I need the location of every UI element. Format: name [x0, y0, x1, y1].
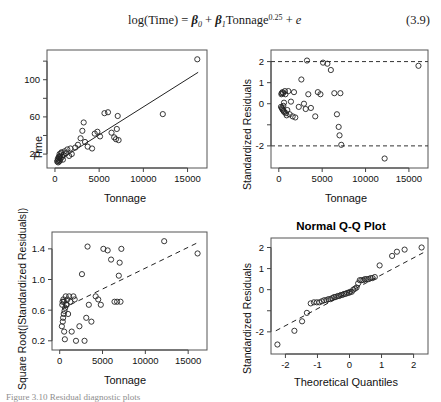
svg-text:2: 2: [259, 242, 264, 253]
equation-body: log(Time) = β0 + β1Tonnage0.25 + e: [128, 13, 301, 29]
equation-error-term: e: [296, 13, 302, 27]
svg-text:1: 1: [259, 77, 264, 88]
svg-text:-2: -2: [256, 140, 264, 151]
svg-text:5000: 5000: [312, 173, 333, 184]
svg-text:15000: 15000: [174, 173, 200, 184]
plot-canvas-normal-qq: -2-1012210-2: [221, 218, 441, 398]
svg-text:0: 0: [276, 173, 281, 184]
svg-text:0: 0: [347, 359, 352, 370]
svg-text:1.0: 1.0: [32, 274, 45, 285]
plot-canvas-std-residuals: 050001000015000210-2: [221, 40, 441, 215]
equation-line: log(Time) = β0 + β1Tonnage0.25 + e (3.9): [0, 6, 441, 36]
svg-text:-1: -1: [313, 359, 321, 370]
svg-text:0: 0: [259, 284, 264, 295]
svg-text:5000: 5000: [92, 355, 113, 366]
equation-tonnage-term: Tonnage: [226, 13, 269, 27]
equation-plus-two: +: [283, 13, 296, 27]
plot-canvas-time-vs-tonnage: 0500010000150002060100: [0, 40, 220, 215]
svg-text:1: 1: [379, 359, 384, 370]
equation-exponent: 0.25: [269, 13, 283, 22]
svg-text:0: 0: [259, 98, 264, 109]
plot-canvas-sqrt-std-residuals: 0500010000150000.20.61.01.4: [0, 218, 220, 398]
equation-number: (3.9): [406, 13, 430, 28]
svg-text:1: 1: [259, 263, 264, 274]
svg-text:0.2: 0.2: [32, 335, 45, 346]
svg-text:60: 60: [29, 111, 40, 122]
svg-text:0.6: 0.6: [32, 305, 45, 316]
svg-text:-2: -2: [281, 359, 289, 370]
svg-text:-2: -2: [256, 326, 264, 337]
plot-normal-qq: Normal Q-Q Plot Standardized Residuals T…: [221, 218, 441, 398]
svg-text:15000: 15000: [175, 355, 201, 366]
equation-lhs: log(Time) =: [128, 13, 192, 27]
plot-sqrt-std-residuals-vs-tonnage: Square Root(|Standardized Residuals|) To…: [0, 218, 220, 398]
plot-std-residuals-vs-tonnage: Standardized Residuals Tonnage 050001000…: [221, 40, 441, 215]
svg-text:0: 0: [57, 355, 62, 366]
svg-text:2: 2: [259, 56, 264, 67]
svg-text:5000: 5000: [89, 173, 110, 184]
svg-text:10000: 10000: [352, 173, 378, 184]
svg-text:10000: 10000: [132, 355, 158, 366]
svg-text:10000: 10000: [130, 173, 156, 184]
svg-text:100: 100: [24, 74, 40, 85]
svg-text:2: 2: [411, 359, 416, 370]
svg-text:1.4: 1.4: [32, 243, 45, 254]
plot-time-vs-tonnage: Time Tonnage 0500010000150002060100: [0, 40, 220, 215]
svg-text:0: 0: [52, 173, 57, 184]
svg-text:15000: 15000: [396, 173, 422, 184]
equation-plus-one: +: [202, 13, 215, 27]
figure-caption-text: Figure 3.10 Residual diagnostic plots: [6, 393, 140, 402]
figure-caption-partial: Figure 3.10 Residual diagnostic plots: [0, 393, 441, 402]
svg-text:20: 20: [29, 148, 40, 159]
